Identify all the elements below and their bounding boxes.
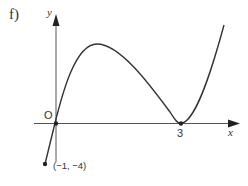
- endpoint-marker: [43, 162, 47, 166]
- y-axis: y: [46, 6, 60, 162]
- origin-marker: [54, 121, 58, 125]
- x-axis: x: [34, 120, 240, 139]
- x-intercept-label: 3: [177, 127, 183, 139]
- graph-figure: f) y x O 3 (−1, −4): [0, 0, 248, 186]
- function-curve: [45, 25, 224, 164]
- y-axis-label: y: [46, 6, 52, 18]
- part-label: f): [9, 6, 19, 23]
- endpoint-label: (−1, −4): [53, 160, 86, 171]
- x-axis-label: x: [227, 126, 233, 138]
- y-axis-arrow-icon: [53, 14, 60, 26]
- origin-label: O: [44, 109, 53, 121]
- x-intercept-marker: [179, 121, 183, 125]
